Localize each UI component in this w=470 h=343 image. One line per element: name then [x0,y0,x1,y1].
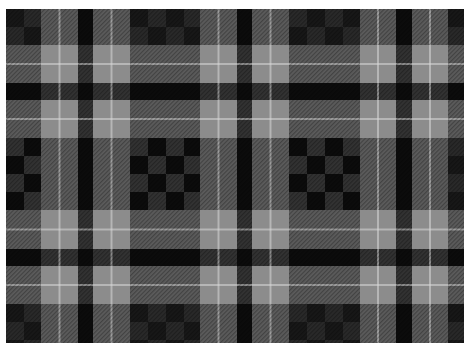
twill-hatch [448,100,464,138]
twill-hatch [41,83,78,100]
twill-hatch [412,249,448,266]
twill-hatch [78,266,93,304]
twill-hatch [41,304,78,343]
twill-hatch [448,45,464,83]
twill-hatch [237,304,252,343]
twill-hatch [78,100,93,138]
twill-hatch [252,83,289,100]
twill-hatch [237,9,252,45]
twill-hatch [200,138,237,210]
twill-hatch [130,266,200,304]
twill-hatch [6,9,41,45]
twill-hatch [130,9,200,45]
twill-hatch [78,138,93,210]
twill-hatch [396,249,412,266]
pinstripe-horizontal [6,63,464,65]
twill-hatch [396,304,412,343]
twill-hatch [360,249,396,266]
twill-hatch [93,138,130,210]
twill-hatch [6,138,41,210]
twill-hatch [237,249,252,266]
twill-hatch [200,83,237,100]
twill-hatch [412,9,448,45]
twill-hatch [6,100,41,138]
twill-hatch [252,9,289,45]
twill-hatch [130,45,200,83]
twill-hatch [448,266,464,304]
twill-hatch [289,210,360,249]
twill-hatch [237,138,252,210]
twill-hatch [130,138,200,210]
twill-hatch [78,83,93,100]
twill-hatch [396,100,412,138]
twill-hatch [6,266,41,304]
twill-hatch [412,138,448,210]
pinstripe-horizontal [6,229,464,231]
pinstripe-horizontal [6,284,464,286]
twill-hatch [289,45,360,83]
twill-hatch [130,100,200,138]
pinstripe-horizontal [6,118,464,120]
twill-hatch [289,83,360,100]
twill-hatch [41,249,78,266]
twill-hatch [448,304,464,343]
twill-hatch [78,249,93,266]
twill-hatch [360,83,396,100]
twill-hatch [200,9,237,45]
twill-hatch [252,249,289,266]
twill-hatch [396,266,412,304]
twill-hatch [200,249,237,266]
twill-hatch [93,9,130,45]
twill-hatch [6,210,41,249]
twill-hatch [6,304,41,343]
twill-hatch [237,83,252,100]
twill-hatch [237,45,252,83]
twill-hatch [360,138,396,210]
twill-hatch [412,83,448,100]
twill-hatch [448,9,464,45]
twill-hatch [360,304,396,343]
twill-hatch [252,304,289,343]
twill-hatch [78,210,93,249]
twill-hatch [237,210,252,249]
twill-hatch [41,9,78,45]
twill-hatch [237,266,252,304]
twill-hatch [448,249,464,266]
twill-hatch [130,83,200,100]
twill-hatch [252,138,289,210]
twill-hatch [200,304,237,343]
twill-hatch [448,138,464,210]
twill-hatch [41,138,78,210]
twill-hatch [412,304,448,343]
twill-hatch [396,210,412,249]
twill-hatch [93,304,130,343]
twill-hatch [130,249,200,266]
twill-hatch [6,45,41,83]
twill-hatch [130,210,200,249]
twill-hatch [78,9,93,45]
twill-hatch [448,83,464,100]
twill-hatch [237,100,252,138]
twill-hatch [93,83,130,100]
twill-hatch [93,249,130,266]
twill-hatch [78,45,93,83]
twill-hatch [6,83,41,100]
twill-hatch [289,9,360,45]
twill-hatch [396,9,412,45]
twill-hatch [78,304,93,343]
tartan-fabric [6,9,464,343]
twill-hatch [396,45,412,83]
twill-hatch [396,138,412,210]
twill-hatch [289,266,360,304]
twill-hatch [289,249,360,266]
twill-hatch [289,100,360,138]
twill-hatch [448,210,464,249]
twill-hatch [396,83,412,100]
twill-hatch [360,9,396,45]
twill-hatch [130,304,200,343]
twill-hatch [289,138,360,210]
twill-hatch [6,249,41,266]
twill-hatch [289,304,360,343]
